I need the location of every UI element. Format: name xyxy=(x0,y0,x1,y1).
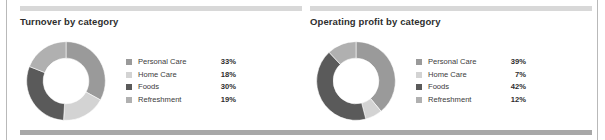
legend-value-home-care: 18% xyxy=(210,69,236,82)
legend-swatch-personal-care xyxy=(416,59,422,65)
legend-label-personal-care: Personal Care xyxy=(138,56,210,69)
legend-swatch-foods xyxy=(126,84,132,90)
page-left-rule xyxy=(6,0,7,140)
legend-swatch-refreshment xyxy=(126,97,132,103)
legend-item-home-care[interactable]: Home Care 7% xyxy=(416,69,592,82)
legend-item-foods[interactable]: Foods 30% xyxy=(126,81,302,94)
panel-body: Personal Care 33% Home Care 18% Foods 30… xyxy=(20,38,302,124)
donut-segment-personal-care[interactable] xyxy=(356,42,395,112)
legend-turnover: Personal Care 33% Home Care 18% Foods 30… xyxy=(112,56,302,106)
panel-topbar xyxy=(20,6,302,11)
panel-topbar xyxy=(310,6,592,11)
legend-item-personal-care[interactable]: Personal Care 39% xyxy=(416,56,592,69)
legend-swatch-foods xyxy=(416,84,422,90)
legend-value-personal-care: 39% xyxy=(500,56,526,69)
donut-chart-operating-profit xyxy=(310,38,402,124)
legend-label-foods: Foods xyxy=(138,81,210,94)
legend-item-refreshment[interactable]: Refreshment 12% xyxy=(416,94,592,107)
legend-label-refreshment: Refreshment xyxy=(428,94,500,107)
legend-value-personal-care: 33% xyxy=(210,56,236,69)
donut-segment-foods[interactable] xyxy=(27,67,65,121)
donut-svg xyxy=(315,40,397,122)
legend-operating-profit: Personal Care 39% Home Care 7% Foods 42%… xyxy=(402,56,592,106)
donut-chart-turnover xyxy=(20,38,112,124)
legend-item-personal-care[interactable]: Personal Care 33% xyxy=(126,56,302,69)
legend-swatch-personal-care xyxy=(126,59,132,65)
legend-value-refreshment: 12% xyxy=(500,94,526,107)
legend-label-home-care: Home Care xyxy=(138,69,210,82)
donut-segment-refreshment[interactable] xyxy=(29,42,66,73)
panel-turnover-by-category: Turnover by category Personal Care 33% H… xyxy=(20,0,302,126)
page-title: Turnover by category xyxy=(20,16,118,27)
legend-item-home-care[interactable]: Home Care 18% xyxy=(126,69,302,82)
panel-operating-profit-by-category: Operating profit by category Personal Ca… xyxy=(310,0,592,126)
legend-value-home-care: 7% xyxy=(500,69,526,82)
legend-label-refreshment: Refreshment xyxy=(138,94,210,107)
legend-item-foods[interactable]: Foods 42% xyxy=(416,81,592,94)
footer-band xyxy=(20,130,592,135)
page-title: Operating profit by category xyxy=(310,16,441,27)
legend-swatch-refreshment xyxy=(416,97,422,103)
legend-value-refreshment: 19% xyxy=(210,94,236,107)
donut-segment-personal-care[interactable] xyxy=(66,42,105,100)
page-right-rule xyxy=(597,0,598,140)
legend-item-refreshment[interactable]: Refreshment 19% xyxy=(126,94,302,107)
legend-value-foods: 42% xyxy=(500,81,526,94)
legend-label-home-care: Home Care xyxy=(428,69,500,82)
legend-label-foods: Foods xyxy=(428,81,500,94)
legend-swatch-home-care xyxy=(416,72,422,78)
legend-label-personal-care: Personal Care xyxy=(428,56,500,69)
donut-svg xyxy=(25,40,107,122)
legend-value-foods: 30% xyxy=(210,81,236,94)
panel-body: Personal Care 39% Home Care 7% Foods 42%… xyxy=(310,38,592,124)
legend-swatch-home-care xyxy=(126,72,132,78)
